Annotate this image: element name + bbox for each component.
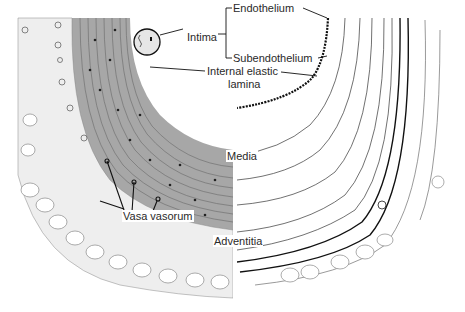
label-vasa-vasorum: Vasa vasorum xyxy=(122,210,194,222)
label-internal-elastic-lamina-line2: lamina xyxy=(227,78,261,90)
intima-magnified-circle xyxy=(134,29,160,55)
label-intima: Intima xyxy=(186,31,218,43)
label-subendothelium: Subendothelium xyxy=(232,52,314,64)
left-histology-section xyxy=(18,18,233,298)
label-media: Media xyxy=(226,150,258,162)
label-internal-elastic-lamina-line1: Internal elastic xyxy=(206,65,279,77)
label-adventitia: Adventitia xyxy=(213,235,263,247)
label-endothelium: Endothelium xyxy=(232,2,295,14)
